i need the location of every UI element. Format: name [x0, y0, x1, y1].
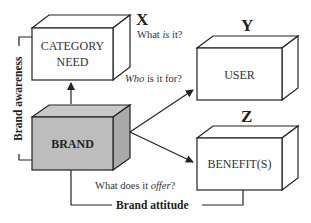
- brand-awareness-label: Brand awareness: [13, 53, 25, 145]
- question-what-does-it-offer: What does it offer?: [95, 181, 175, 192]
- question-what-is-it: What is it?: [137, 30, 183, 41]
- letter-y: Y: [241, 17, 253, 34]
- letter-x: X: [136, 11, 148, 28]
- benefits-label: BENEFIT(S): [197, 156, 282, 172]
- user-label: USER: [197, 67, 282, 83]
- category-need-label: CATEGORY NEED: [32, 38, 113, 70]
- brand-label: BRAND: [32, 136, 113, 152]
- arrow-brand-to-benefits: [130, 132, 193, 162]
- question-who-is-it-for: Who is it for?: [125, 74, 182, 85]
- brand-attitude-label: Brand attitude: [116, 200, 189, 212]
- arrow-brand-to-user: [130, 90, 193, 132]
- letter-z: Z: [241, 108, 252, 125]
